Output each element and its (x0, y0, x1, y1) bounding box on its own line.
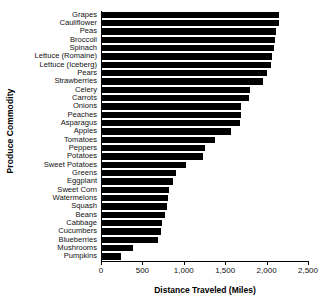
bar-row (102, 203, 309, 211)
x-axis-tick-label: 500 (136, 266, 149, 275)
bar (102, 153, 203, 159)
bar (102, 137, 215, 143)
bar (102, 37, 275, 43)
x-axis-tick (142, 261, 143, 265)
x-axis-title: Distance Traveled (Miles) (101, 285, 309, 295)
bar (102, 228, 161, 234)
bar (102, 187, 169, 193)
x-axis-tick (184, 261, 185, 265)
bar-row (102, 119, 309, 127)
bar-row (102, 236, 309, 244)
x-axis-tick (308, 261, 309, 265)
bar-row (102, 19, 309, 27)
bar (102, 170, 176, 176)
bar (102, 220, 162, 226)
plot-area (101, 11, 309, 261)
bar (102, 53, 272, 59)
bar (102, 112, 241, 118)
bar-row (102, 44, 309, 52)
bar-row (102, 103, 309, 111)
bar-row (102, 11, 309, 19)
x-axis-tick (267, 261, 268, 265)
bar (102, 237, 158, 243)
bar-row (102, 111, 309, 119)
bar-row (102, 136, 309, 144)
bar-row (102, 219, 309, 227)
x-axis-tick-label: 1,000 (174, 266, 194, 275)
bar (102, 212, 165, 218)
bar (102, 245, 133, 251)
bar-row (102, 244, 309, 252)
bar (102, 103, 241, 109)
bar-row (102, 86, 309, 94)
bar (102, 87, 250, 93)
bar (102, 70, 267, 76)
bar (102, 78, 263, 84)
bar (102, 203, 167, 209)
bar-row (102, 253, 309, 261)
bar (102, 195, 168, 201)
x-axis-tick (225, 261, 226, 265)
bar-chart: Produce Commodity GrapesCauliflowerPeasB… (0, 0, 328, 308)
bar-row (102, 144, 309, 152)
y-axis-category-label: Pumpkins (14, 252, 97, 261)
bar-row (102, 78, 309, 86)
bar-row (102, 211, 309, 219)
bar-row (102, 36, 309, 44)
bar-row (102, 194, 309, 202)
bar (102, 95, 249, 101)
x-axis-tick (101, 261, 102, 265)
x-axis-tick-label: 2,500 (298, 266, 318, 275)
bar-row (102, 178, 309, 186)
x-axis-line (101, 261, 309, 262)
bar-row (102, 128, 309, 136)
bar (102, 145, 205, 151)
bar (102, 253, 121, 259)
bar (102, 20, 279, 26)
bar-row (102, 69, 309, 77)
bar (102, 12, 279, 18)
x-axis-tick-label: 0 (99, 266, 103, 275)
bar-row (102, 28, 309, 36)
bar (102, 120, 240, 126)
bar (102, 45, 274, 51)
x-axis-tick-label: 1,500 (215, 266, 235, 275)
bar-row (102, 94, 309, 102)
bar (102, 162, 186, 168)
bar-row (102, 153, 309, 161)
bar (102, 178, 173, 184)
bar-row (102, 61, 309, 69)
bar (102, 128, 231, 134)
bar (102, 62, 271, 68)
y-axis-category-labels: GrapesCauliflowerPeasBroccoliSpinachLett… (16, 11, 99, 260)
bar (102, 28, 276, 34)
bar-row (102, 228, 309, 236)
bar-row (102, 161, 309, 169)
bar-row (102, 53, 309, 61)
bar-row (102, 169, 309, 177)
bar-row (102, 186, 309, 194)
x-axis-tick-label: 2,000 (257, 266, 277, 275)
